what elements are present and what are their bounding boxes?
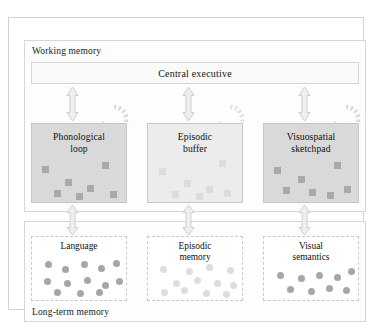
phonological-loop-box[interactable]: Phonological loop — [31, 123, 127, 203]
memory-trace-dot — [116, 278, 123, 285]
memory-trace-dot — [194, 277, 201, 284]
visual-semantics-items — [264, 237, 358, 300]
memory-trace-square — [274, 167, 281, 174]
memory-trace-square — [65, 179, 72, 186]
memory-trace-square — [172, 191, 179, 198]
memory-trace-square — [224, 190, 231, 197]
memory-trace-square — [42, 166, 49, 173]
long-term-memory-label: Long-term memory — [32, 307, 109, 317]
memory-trace-dot — [84, 277, 91, 284]
arrow-exec-to-episodic-icon — [182, 86, 195, 122]
visuospatial-sketchpad-items — [264, 124, 358, 202]
memory-trace-dot — [223, 291, 230, 298]
episodic-buffer-items — [148, 124, 242, 202]
memory-trace-dot — [326, 285, 333, 292]
memory-trace-square — [309, 189, 316, 196]
memory-trace-square — [54, 190, 61, 197]
memory-trace-dot — [287, 286, 294, 293]
language-box[interactable]: Language — [31, 236, 127, 301]
memory-trace-square — [159, 168, 166, 175]
memory-trace-square — [87, 185, 94, 192]
memory-trace-dot — [214, 280, 221, 287]
memory-trace-dot — [343, 287, 350, 294]
arrow-exec-to-visuospatial-icon — [298, 86, 311, 122]
phonological-loop-items — [32, 124, 126, 202]
memory-trace-dot — [54, 289, 61, 296]
memory-trace-dot — [186, 268, 193, 275]
arrow-phonological-to-language-icon — [66, 204, 79, 236]
memory-trace-square — [298, 176, 305, 183]
memory-trace-dot — [45, 261, 52, 268]
memory-trace-dot — [277, 272, 284, 279]
arrow-visuospatial-to-visual-semantics-icon — [298, 204, 311, 236]
memory-trace-square — [76, 193, 83, 200]
memory-trace-square — [196, 193, 203, 200]
memory-trace-dot — [203, 290, 210, 297]
central-executive-box[interactable]: Central executive — [31, 62, 359, 84]
arrow-exec-to-phonological-icon — [66, 86, 79, 122]
memory-trace-square — [110, 191, 117, 198]
memory-trace-square — [206, 186, 213, 193]
memory-trace-dot — [334, 274, 341, 281]
memory-trace-dot — [98, 265, 105, 272]
memory-trace-dot — [62, 266, 69, 273]
episodic-memory-items — [148, 237, 242, 300]
memory-trace-dot — [113, 260, 120, 267]
memory-trace-dot — [160, 266, 167, 273]
episodic-memory-box[interactable]: Episodic memory — [147, 236, 243, 301]
memory-trace-dot — [96, 289, 103, 296]
memory-trace-dot — [44, 278, 51, 285]
memory-trace-dot — [348, 268, 355, 275]
visual-semantics-box[interactable]: Visual semantics — [263, 236, 359, 301]
episodic-buffer-box[interactable]: Episodic buffer — [147, 123, 243, 203]
memory-trace-dot — [230, 282, 237, 289]
memory-trace-dot — [77, 290, 84, 297]
memory-trace-dot — [316, 272, 323, 279]
memory-trace-dot — [173, 280, 180, 287]
visuospatial-sketchpad-box[interactable]: Visuospatial sketchpad — [263, 123, 359, 203]
memory-trace-dot — [206, 264, 213, 271]
memory-trace-dot — [161, 289, 168, 296]
memory-trace-dot — [227, 267, 234, 274]
memory-trace-dot — [298, 275, 305, 282]
memory-trace-dot — [102, 282, 109, 289]
memory-trace-square — [327, 192, 334, 199]
working-memory-label: Working memory — [32, 46, 101, 56]
memory-trace-dot — [81, 261, 88, 268]
memory-trace-square — [102, 162, 109, 169]
language-items — [32, 237, 126, 300]
arrow-episodic-to-episodic-memory-icon — [182, 204, 195, 236]
memory-trace-square — [219, 160, 226, 167]
memory-trace-square — [184, 180, 191, 187]
central-executive-label: Central executive — [158, 68, 232, 79]
diagram-canvas: Working memory Long-term memory Central … — [0, 0, 374, 331]
memory-trace-dot — [181, 287, 188, 294]
memory-trace-square — [334, 162, 341, 169]
memory-trace-dot — [308, 288, 315, 295]
memory-trace-square — [344, 186, 351, 193]
diagram-frame: Working memory Long-term memory Central … — [8, 17, 364, 310]
memory-trace-dot — [64, 280, 71, 287]
memory-trace-square — [283, 187, 290, 194]
